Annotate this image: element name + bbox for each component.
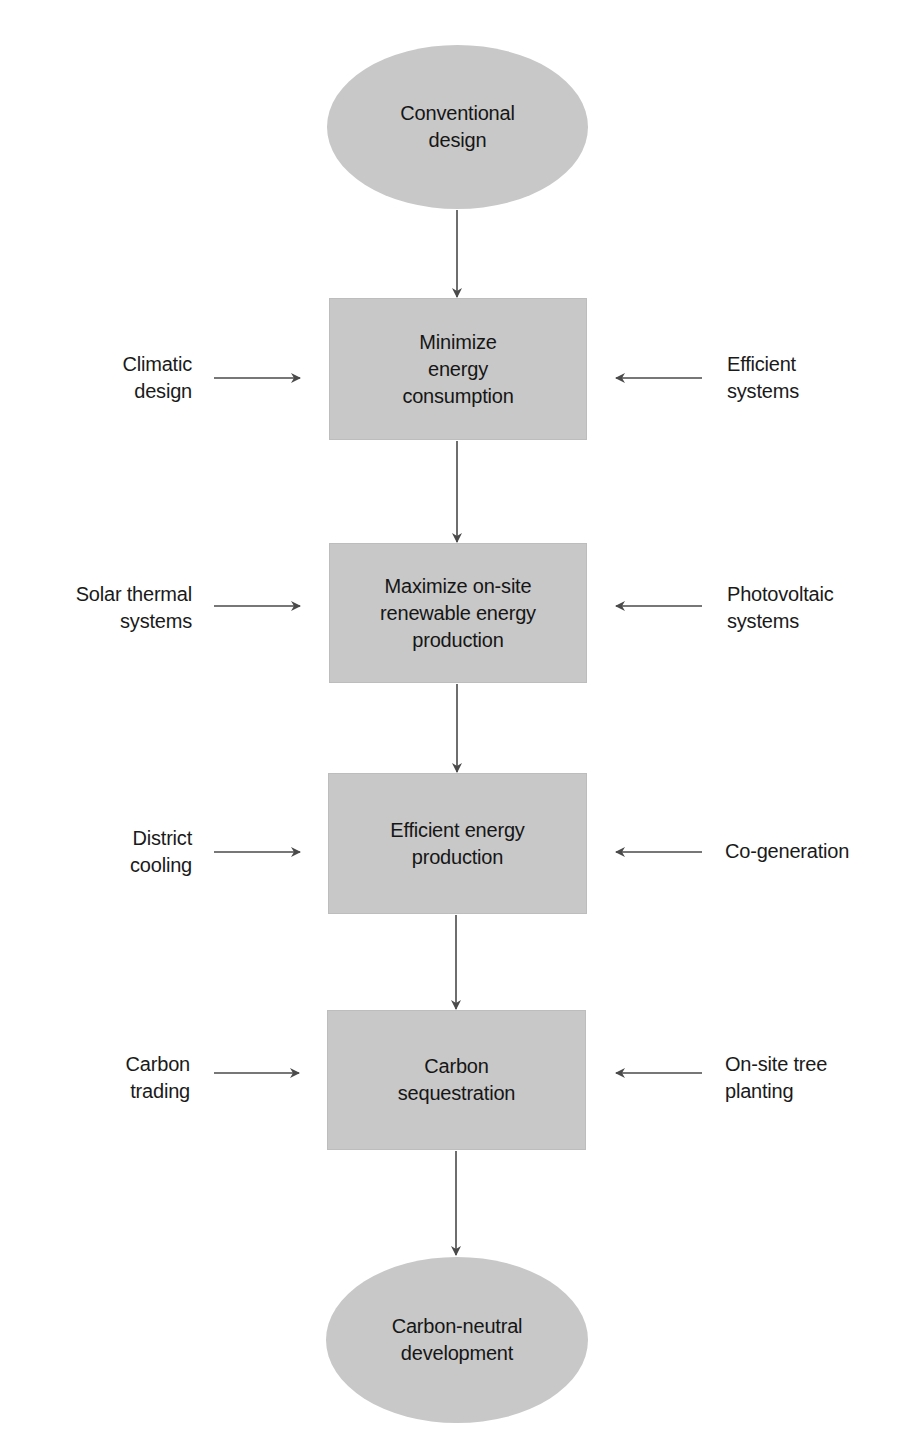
input-onsite-tree-planting: On-site tree planting	[725, 1051, 827, 1105]
input-efficient-systems: Efficient systems	[727, 351, 799, 405]
step-label: Minimize energy consumption	[402, 329, 513, 410]
step-label: Maximize on-site renewable energy produc…	[380, 573, 536, 654]
input-carbon-trading: Carbon trading	[126, 1051, 190, 1105]
input-climatic-design: Climatic design	[122, 351, 192, 405]
step-label: Carbon sequestration	[398, 1053, 515, 1107]
step-maximize-onsite-renewable-production: Maximize on-site renewable energy produc…	[329, 543, 587, 683]
step-label: Efficient energy production	[390, 817, 524, 871]
input-solar-thermal-systems: Solar thermal systems	[76, 581, 192, 635]
end-node-label: Carbon-neutral development	[392, 1313, 523, 1367]
step-minimize-energy-consumption: Minimize energy consumption	[329, 298, 587, 440]
connector-layer	[0, 0, 920, 1456]
step-efficient-energy-production: Efficient energy production	[328, 773, 587, 914]
input-co-generation: Co-generation	[725, 838, 849, 865]
input-photovoltaic-systems: Photovoltaic systems	[727, 581, 834, 635]
end-node-carbon-neutral-development: Carbon-neutral development	[326, 1257, 588, 1423]
flowchart-canvas: Conventional design Minimize energy cons…	[0, 0, 920, 1456]
step-carbon-sequestration: Carbon sequestration	[327, 1010, 586, 1150]
start-node-label: Conventional design	[400, 100, 514, 154]
start-node-conventional-design: Conventional design	[327, 45, 588, 209]
input-district-cooling: District cooling	[130, 825, 192, 879]
